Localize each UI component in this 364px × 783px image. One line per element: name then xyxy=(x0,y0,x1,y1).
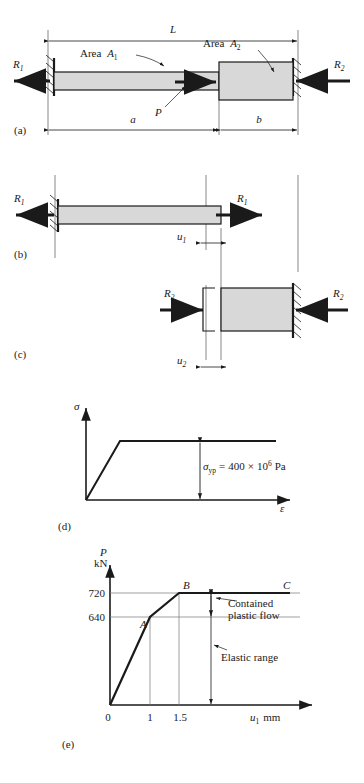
annotation-contained-plastic-flow-line1: Contained xyxy=(228,597,274,609)
x-axis-label-d: ε xyxy=(280,502,285,514)
engineering-figure: L R1 R2 xyxy=(0,0,364,783)
panel-c: R2 R2 u2 (c) xyxy=(14,283,348,369)
reaction-label-r2-left-c: R2 xyxy=(163,287,175,302)
panel-label-b: (b) xyxy=(14,248,27,261)
panel-label-c: (c) xyxy=(14,348,27,361)
panel-b: R1 R1 u1 (b) xyxy=(13,175,298,285)
y-tick-label-720: 720 xyxy=(89,587,106,599)
x-axis-label-e: u1mm xyxy=(250,711,281,726)
panel-label-a: (a) xyxy=(14,124,27,137)
point-label-a: A xyxy=(139,618,147,630)
panel-a: L R1 R2 xyxy=(12,23,350,137)
figure-canvas: L R1 R2 xyxy=(0,0,364,783)
panel-label-e: (e) xyxy=(62,738,75,751)
fixed-support-left-a xyxy=(46,55,54,96)
reaction-label-r2-right-c: R2 xyxy=(332,287,344,302)
reaction-label-r1-right-b: R1 xyxy=(236,192,247,207)
x-tick-label-0: 0 xyxy=(105,711,111,723)
bar-segment-c2 xyxy=(221,288,293,331)
reaction-label-r2-a: R2 xyxy=(333,58,345,73)
bar-segment-a2 xyxy=(219,62,293,100)
bar-segment-b1 xyxy=(58,206,221,224)
y-axis-unit-e: kN xyxy=(94,557,108,569)
gap-bracket-c xyxy=(203,288,215,331)
dimension-label-u1: u1 xyxy=(177,230,186,245)
leader-line-elastic-range xyxy=(214,645,227,650)
point-label-b: B xyxy=(183,579,190,591)
annotation-contained-plastic-flow-line2: plastic flow xyxy=(228,609,280,621)
leader-line-area-a1 xyxy=(136,55,164,66)
area-a1-label: Area A1 xyxy=(80,47,118,62)
point-label-c: C xyxy=(283,579,291,591)
y-tick-label-640: 640 xyxy=(89,611,106,623)
panel-label-d: (d) xyxy=(58,520,71,533)
applied-load-label-p: P xyxy=(154,106,162,118)
dimension-label-u2: u2 xyxy=(177,354,187,369)
annotation-sigma-yp: σyp=400×106Pa xyxy=(203,459,286,475)
dimension-label-L: L xyxy=(169,23,176,35)
dimension-label-b: b xyxy=(256,113,262,125)
x-tick-label-1p5: 1.5 xyxy=(173,711,187,723)
reaction-label-r1-left-b: R1 xyxy=(13,192,24,207)
annotation-elastic-range: Elastic range xyxy=(221,651,278,663)
y-axis-label-d: σ xyxy=(74,400,80,412)
panel-d-chart: σ ε σyp=400×106Pa (d) xyxy=(58,400,290,533)
x-tick-label-1: 1 xyxy=(147,711,153,723)
dimension-label-a: a xyxy=(130,113,136,125)
area-a2-label: Area A2 xyxy=(203,37,241,52)
panel-e-chart: P kN u1mm 640 720 0 1 1.5 A B C Containe… xyxy=(62,546,312,751)
reaction-label-r1-a: R1 xyxy=(12,58,23,73)
fixed-support-right-a xyxy=(293,58,301,97)
